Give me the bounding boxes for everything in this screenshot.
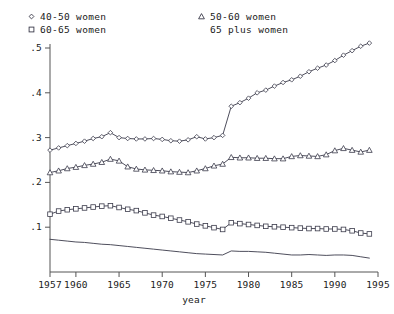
x-tick-label: 1995 [361,280,394,290]
diamond-data-point [186,138,191,143]
diamond-data-point [91,136,96,141]
series-line [50,239,369,258]
series-40-50-women [48,41,372,153]
series-line [50,206,369,234]
x-axis-ticks [50,272,378,277]
square-data-point [108,203,113,208]
square-data-point [65,207,70,212]
series-50-60-women [47,146,372,175]
square-data-point [307,226,312,231]
legend-label: 40-50 women [40,11,106,22]
square-data-point [143,211,148,216]
diamond-data-point [48,148,53,153]
series-60-65-women [48,203,372,236]
diamond-data-point [177,139,182,144]
triangle-marker-icon [196,11,207,22]
y-tick-label: .5 [16,43,42,53]
square-data-point [298,226,303,231]
triangle-data-point [323,152,329,157]
diamond-data-point [289,78,294,83]
axis-lines [50,44,378,272]
diamond-data-point [263,88,268,93]
diamond-data-point [74,141,79,146]
square-data-point [134,208,139,213]
square-data-point [194,222,199,227]
diamond-data-point [99,134,104,139]
diamond-data-point [151,136,156,141]
diamond-data-point [341,53,346,58]
diamond-data-point [358,44,363,49]
series-line [50,148,369,172]
square-data-point [56,209,61,214]
square-data-point [74,207,79,212]
diamond-data-point [194,134,199,139]
x-tick-label: 1960 [59,280,93,290]
square-data-point [350,228,355,233]
no-marker-icon [196,24,207,35]
square-data-point [263,224,268,229]
diamond-data-point [315,66,320,71]
y-tick-label: .3 [16,133,42,143]
diamond-data-point [324,63,329,68]
square-data-point [99,204,104,209]
triangle-data-point [367,147,373,152]
square-data-point [324,227,329,232]
square-data-point [238,221,243,226]
diamond-data-point [169,138,174,143]
diamond-data-point [125,136,130,141]
x-tick-label: 1975 [188,280,222,290]
diamond-data-point [350,48,355,53]
diamond-marker-icon [26,11,37,22]
x-tick-label: 1990 [318,280,352,290]
square-data-point [220,227,225,232]
y-axis-ticks [45,48,50,227]
triangle-data-point [341,146,347,151]
diamond-data-point [220,133,225,138]
square-data-point [160,214,165,219]
y-tick-label: .4 [16,88,42,98]
triangle-data-point [108,156,114,161]
diamond-data-point [56,146,61,151]
legend-item-50-60-women: 50-60 women [196,10,288,23]
diamond-data-point [246,96,251,101]
square-data-point [186,220,191,225]
square-marker-icon [26,24,37,35]
square-data-point [91,205,96,210]
square-data-point [333,227,338,232]
square-data-point [48,212,53,217]
square-data-point [358,231,363,236]
legend-label: 60-65 women [40,24,106,35]
diamond-data-point [212,135,217,140]
series-65-plus-women [50,239,369,258]
x-tick-label: 1970 [145,280,179,290]
legend-column-left: 40-50 women 60-65 women [26,10,106,36]
legend-column-right: 50-60 women 65 plus women [196,10,288,36]
square-data-point [177,218,182,223]
square-data-point [281,225,286,230]
diamond-data-point [108,130,113,135]
legend-item-40-50-women: 40-50 women [26,10,106,23]
y-tick-label: .2 [16,177,42,187]
diamond-data-point [333,58,338,63]
legend-item-65-plus-women: 65 plus women [196,23,288,36]
x-tick-label: 1965 [102,280,136,290]
square-data-point [255,223,260,228]
diamond-data-point [117,135,122,140]
square-data-point [151,213,156,218]
legend-label: 50-60 women [210,11,276,22]
square-data-point [229,220,234,225]
square-data-point [203,224,208,229]
diamond-data-point [238,100,243,105]
square-data-point [212,225,217,230]
legend-label: 65 plus women [210,24,288,35]
series-line [50,43,369,150]
legend-item-60-65-women: 60-65 women [26,23,106,36]
chart-legend: 40-50 women 60-65 women 50-60 women 65 p… [0,10,388,44]
diamond-data-point [134,137,139,142]
square-data-point [169,216,174,221]
diamond-data-point [229,104,234,109]
x-tick-label: 1980 [232,280,266,290]
diamond-data-point [307,69,312,74]
diamond-data-point [255,91,260,96]
